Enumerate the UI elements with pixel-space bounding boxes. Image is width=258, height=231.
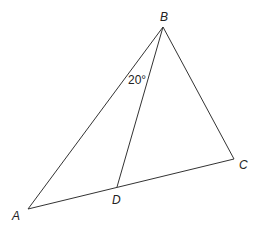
label-a: A [11, 209, 20, 223]
angle-label: 20° [128, 73, 146, 87]
segment-bd [117, 27, 163, 187]
segment-bc [163, 27, 234, 159]
label-c: C [239, 158, 248, 172]
label-b: B [160, 10, 168, 24]
geometry-diagram: B A D C 20° [0, 0, 258, 231]
label-d: D [112, 193, 121, 207]
segment-ac [28, 159, 234, 209]
segment-ab [28, 27, 163, 209]
